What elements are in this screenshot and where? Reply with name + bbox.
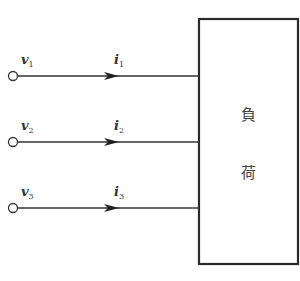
current-label-3: i3 [114, 184, 124, 201]
voltage-label-1: v1 [21, 52, 34, 69]
terminal-node-icon [9, 138, 18, 147]
load-label-1: 負 [241, 106, 256, 124]
load-diagram: 負 荷 v1 i1 v2 i2 v3 i3 [0, 0, 300, 281]
voltage-label-2: v2 [21, 118, 34, 135]
load-label-2: 荷 [241, 164, 256, 182]
terminal-1: v1 i1 [9, 52, 200, 81]
load-box [199, 19, 298, 264]
current-label-2: i2 [114, 118, 124, 135]
terminal-3: v3 i3 [9, 184, 200, 213]
current-label-1: i1 [114, 52, 124, 69]
voltage-label-3: v3 [21, 184, 34, 201]
terminal-2: v2 i2 [9, 118, 200, 147]
terminal-node-icon [9, 72, 18, 81]
terminal-node-icon [9, 204, 18, 213]
